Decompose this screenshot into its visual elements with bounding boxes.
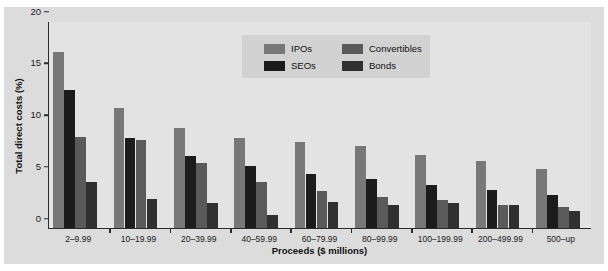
x-tick-separator <box>532 228 534 233</box>
chart-legend: IPOs SEOs Convertibles Bonds <box>242 35 430 78</box>
bar-bonds-4 <box>328 202 339 228</box>
x-tick-separator <box>230 228 232 233</box>
y-tick-label: 15 <box>30 59 44 69</box>
bar-ipos-1 <box>114 108 125 228</box>
bar-convertibles-5 <box>377 197 388 228</box>
bar-convertibles-2 <box>196 163 207 228</box>
x-category-label-0: 2–9.99 <box>65 234 91 244</box>
y-tick-15: 15 <box>30 59 49 69</box>
x-category-label-4: 60–79.99 <box>302 234 337 244</box>
bar-ipos-8 <box>536 169 547 228</box>
x-category-label-6: 100–199.99 <box>418 234 463 244</box>
bar-bonds-2 <box>207 203 218 228</box>
x-category-label-3: 40–59.99 <box>241 234 276 244</box>
legend-swatch-convertibles <box>342 44 363 54</box>
y-tick-mark <box>44 114 49 116</box>
legend-item-seos: SEOs <box>264 59 316 72</box>
y-tick-mark <box>44 166 49 168</box>
y-tick-20: 20 <box>30 7 49 17</box>
x-tick-separator <box>411 228 413 233</box>
bar-ipos-2 <box>174 128 185 228</box>
bar-ipos-7 <box>476 161 487 228</box>
bar-ipos-5 <box>355 146 366 228</box>
bar-seos-4 <box>306 174 317 228</box>
bar-seos-3 <box>245 166 256 228</box>
bar-bonds-7 <box>509 205 520 228</box>
bar-seos-2 <box>185 156 196 228</box>
y-tick-label: 5 <box>36 162 44 172</box>
bar-convertibles-4 <box>317 191 328 228</box>
bar-ipos-3 <box>234 138 245 228</box>
x-category-label-7: 200–499.99 <box>478 234 523 244</box>
bar-ipos-0 <box>53 52 64 228</box>
bar-seos-1 <box>125 138 136 228</box>
bar-bonds-1 <box>147 199 158 228</box>
bar-seos-5 <box>366 179 377 228</box>
bar-seos-8 <box>547 195 558 228</box>
bar-convertibles-3 <box>256 182 267 228</box>
legend-label-seos: SEOs <box>291 61 316 71</box>
legend-item-ipos: IPOs <box>264 42 312 55</box>
y-axis-title-container: Total direct costs (%) <box>10 22 26 229</box>
bar-bonds-8 <box>569 211 580 228</box>
figure-container: Total direct costs (%) 05101520 2–9.9910… <box>0 0 608 271</box>
legend-label-convertibles: Convertibles <box>369 44 422 54</box>
bar-bonds-6 <box>448 203 459 228</box>
chart-panel: Total direct costs (%) 05101520 2–9.9910… <box>4 7 604 264</box>
y-tick-label: 10 <box>30 110 44 120</box>
bar-bonds-0 <box>86 182 97 228</box>
legend-swatch-ipos <box>264 44 285 54</box>
bar-convertibles-6 <box>437 200 448 228</box>
legend-swatch-seos <box>264 61 285 71</box>
x-category-label-2: 20–39.99 <box>181 234 216 244</box>
y-tick-label: 0 <box>36 214 44 224</box>
x-tick-separator <box>471 228 473 233</box>
y-tick-mark <box>44 218 49 220</box>
x-tick-separator <box>290 228 292 233</box>
legend-swatch-bonds <box>342 61 363 71</box>
legend-label-ipos: IPOs <box>291 44 312 54</box>
bar-convertibles-7 <box>498 205 509 228</box>
y-tick-mark <box>44 11 49 13</box>
bar-convertibles-1 <box>136 140 147 228</box>
x-axis-title: Proceeds ($ millions) <box>48 245 591 256</box>
bar-seos-7 <box>487 190 498 228</box>
bar-ipos-6 <box>415 155 426 228</box>
legend-label-bonds: Bonds <box>369 61 396 71</box>
y-tick-mark <box>44 63 49 65</box>
y-tick-5: 5 <box>36 162 49 172</box>
bar-bonds-5 <box>388 205 399 228</box>
bar-ipos-4 <box>295 142 306 228</box>
y-tick-10: 10 <box>30 110 49 120</box>
bar-bonds-3 <box>267 215 278 228</box>
bar-convertibles-8 <box>558 207 569 228</box>
x-category-label-5: 80–99.99 <box>362 234 397 244</box>
legend-item-bonds: Bonds <box>342 59 396 72</box>
x-tick-separator <box>109 228 111 233</box>
y-tick-label: 20 <box>30 7 44 17</box>
x-category-label-1: 10–19.99 <box>121 234 156 244</box>
bar-seos-0 <box>64 90 75 228</box>
x-category-label-8: 500–up <box>547 234 575 244</box>
y-axis-title: Total direct costs (%) <box>13 78 24 173</box>
x-tick-separator <box>170 228 172 233</box>
x-tick-separator <box>351 228 353 233</box>
bar-convertibles-0 <box>75 137 86 228</box>
y-tick-0: 0 <box>36 214 49 224</box>
legend-item-convertibles: Convertibles <box>342 42 422 55</box>
bar-seos-6 <box>426 185 437 228</box>
